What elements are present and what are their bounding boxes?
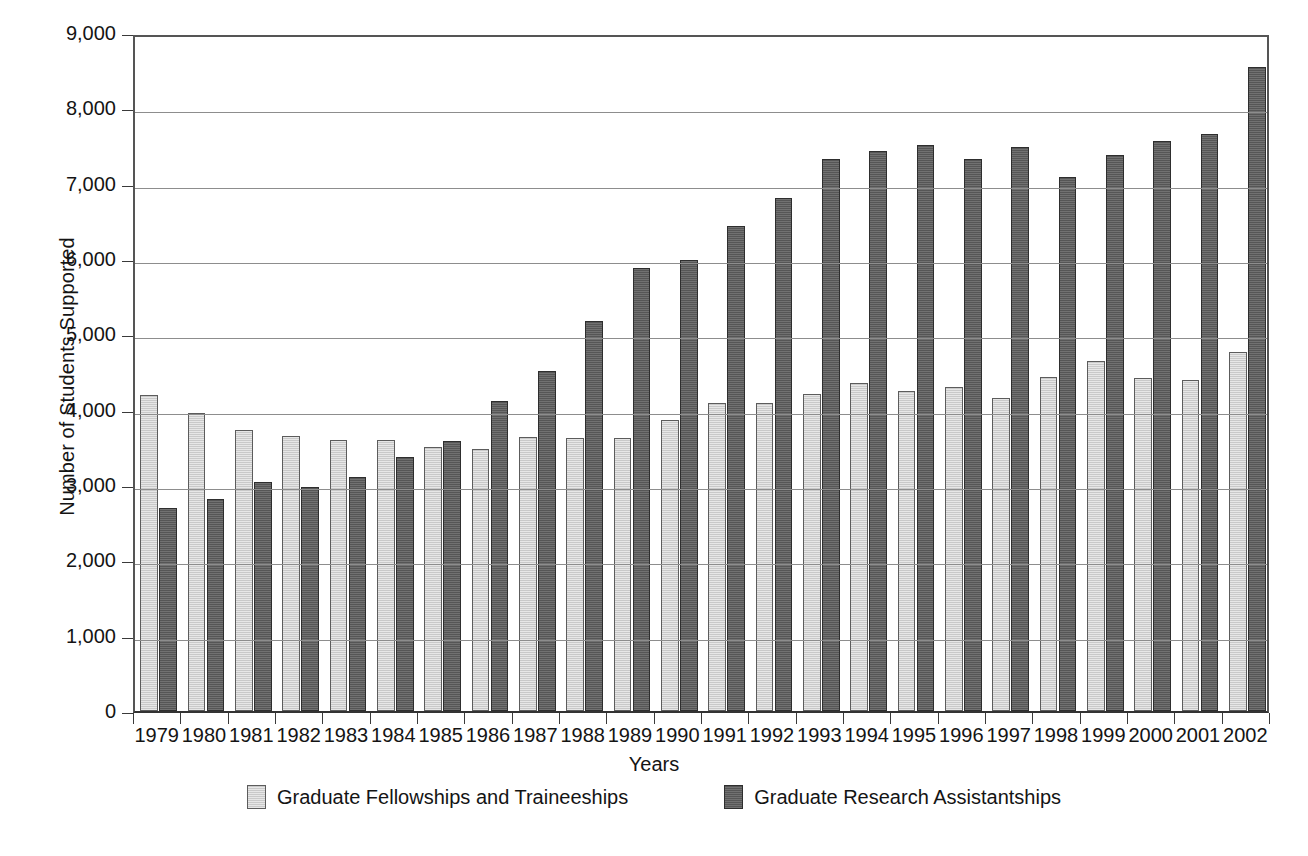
bar-graduate-research-assistantships-1991 bbox=[727, 226, 745, 711]
x-axis-tick-label-1984: 1984 bbox=[371, 724, 416, 747]
gridline bbox=[135, 188, 1267, 189]
x-axis-tick bbox=[559, 713, 560, 724]
x-axis-tick-label-1986: 1986 bbox=[466, 724, 511, 747]
bar-graduate-research-assistantships-1986 bbox=[491, 401, 509, 711]
bars-layer bbox=[135, 37, 1267, 711]
bar-graduate-fellowships-and-traineeships-1996 bbox=[945, 387, 963, 711]
bar-graduate-fellowships-and-traineeships-1994 bbox=[850, 383, 868, 711]
x-axis-tick-label-1987: 1987 bbox=[513, 724, 558, 747]
bar-graduate-research-assistantships-1980 bbox=[207, 499, 225, 711]
x-axis-tick-label-1996: 1996 bbox=[939, 724, 984, 747]
y-axis-tick bbox=[122, 35, 133, 36]
x-axis-tick bbox=[275, 713, 276, 724]
bar-graduate-research-assistantships-2001 bbox=[1201, 134, 1219, 711]
y-axis-title: Number of Students Supported bbox=[56, 57, 79, 697]
bar-graduate-research-assistantships-1999 bbox=[1106, 155, 1124, 711]
x-axis-tick bbox=[322, 713, 323, 724]
x-axis-tick-label-1979: 1979 bbox=[134, 724, 179, 747]
bar-graduate-fellowships-and-traineeships-1984 bbox=[377, 440, 395, 711]
x-axis-tick bbox=[1127, 713, 1128, 724]
bar-graduate-research-assistantships-1979 bbox=[159, 508, 177, 711]
bar-graduate-research-assistantships-1985 bbox=[443, 441, 461, 711]
bar-graduate-research-assistantships-1997 bbox=[1011, 147, 1029, 711]
x-axis-tick-label-1980: 1980 bbox=[182, 724, 227, 747]
x-axis-tick-label-1982: 1982 bbox=[276, 724, 321, 747]
gridline bbox=[135, 489, 1267, 490]
bar-graduate-fellowships-and-traineeships-1997 bbox=[992, 398, 1010, 711]
x-axis-tick-label-1985: 1985 bbox=[418, 724, 463, 747]
bar-graduate-fellowships-and-traineeships-2001 bbox=[1182, 380, 1200, 711]
y-axis-tick-label: 7,000 bbox=[30, 173, 116, 196]
x-axis-tick-label-2002: 2002 bbox=[1223, 724, 1268, 747]
x-axis-tick bbox=[748, 713, 749, 724]
y-axis-tick bbox=[122, 110, 133, 111]
y-axis-tick bbox=[122, 487, 133, 488]
y-axis-tick-label: 9,000 bbox=[30, 22, 116, 45]
x-axis-tick bbox=[180, 713, 181, 724]
gridline bbox=[135, 564, 1267, 565]
bar-graduate-fellowships-and-traineeships-1991 bbox=[708, 403, 726, 711]
bar-graduate-research-assistantships-1994 bbox=[869, 151, 887, 711]
bar-graduate-fellowships-and-traineeships-1979 bbox=[140, 395, 158, 711]
bar-graduate-fellowships-and-traineeships-1995 bbox=[898, 391, 916, 711]
x-axis-tick-label-1999: 1999 bbox=[1081, 724, 1126, 747]
gridline bbox=[135, 338, 1267, 339]
legend-label: Graduate Research Assistantships bbox=[754, 786, 1061, 809]
x-axis-tick bbox=[228, 713, 229, 724]
x-axis-tick bbox=[1222, 713, 1223, 724]
y-axis-tick-label: 5,000 bbox=[30, 323, 116, 346]
x-axis-tick-label-1990: 1990 bbox=[655, 724, 700, 747]
x-axis-tick bbox=[1269, 713, 1270, 724]
x-axis-tick bbox=[1032, 713, 1033, 724]
x-axis-tick bbox=[606, 713, 607, 724]
y-axis-tick-label: 0 bbox=[30, 700, 116, 723]
gridline bbox=[135, 640, 1267, 641]
bar-graduate-fellowships-and-traineeships-1982 bbox=[282, 436, 300, 711]
bar-graduate-research-assistantships-2000 bbox=[1153, 141, 1171, 711]
x-axis-tick bbox=[1174, 713, 1175, 724]
legend-item-assistantships: Graduate Research Assistantships bbox=[724, 785, 1061, 809]
bar-graduate-fellowships-and-traineeships-1990 bbox=[661, 420, 679, 711]
bar-graduate-fellowships-and-traineeships-1983 bbox=[330, 440, 348, 711]
bar-graduate-research-assistantships-2002 bbox=[1248, 67, 1266, 711]
x-axis-tick bbox=[654, 713, 655, 724]
bar-graduate-research-assistantships-1987 bbox=[538, 371, 556, 712]
bar-graduate-research-assistantships-1988 bbox=[585, 321, 603, 711]
bar-graduate-research-assistantships-1981 bbox=[254, 482, 272, 711]
x-axis-tick-label-1989: 1989 bbox=[608, 724, 653, 747]
y-axis-tick bbox=[122, 562, 133, 563]
bar-graduate-fellowships-and-traineeships-1988 bbox=[566, 438, 584, 711]
x-axis-tick bbox=[370, 713, 371, 724]
x-axis-tick-label-1991: 1991 bbox=[702, 724, 747, 747]
gridline bbox=[135, 112, 1267, 113]
y-axis-tick bbox=[122, 261, 133, 262]
bar-graduate-research-assistantships-1983 bbox=[349, 477, 367, 711]
x-axis-tick bbox=[890, 713, 891, 724]
bar-graduate-fellowships-and-traineeships-1993 bbox=[803, 394, 821, 711]
y-axis-tick-label: 3,000 bbox=[30, 474, 116, 497]
y-axis-tick bbox=[122, 186, 133, 187]
x-axis-tick-label-1988: 1988 bbox=[560, 724, 605, 747]
y-axis-tick-label: 1,000 bbox=[30, 625, 116, 648]
bar-graduate-research-assistantships-1996 bbox=[964, 159, 982, 711]
legend-label: Graduate Fellowships and Traineeships bbox=[277, 786, 628, 809]
bar-chart: Number of Students Supported 9,0008,0007… bbox=[0, 0, 1308, 856]
bar-graduate-fellowships-and-traineeships-1980 bbox=[188, 413, 206, 711]
legend-item-fellowships: Graduate Fellowships and Traineeships bbox=[247, 785, 628, 809]
x-axis-tick-label-1983: 1983 bbox=[324, 724, 369, 747]
x-axis-tick bbox=[464, 713, 465, 724]
x-axis-tick-label-1981: 1981 bbox=[229, 724, 274, 747]
bar-graduate-research-assistantships-1992 bbox=[775, 198, 793, 711]
x-axis-tick bbox=[938, 713, 939, 724]
bar-graduate-research-assistantships-1990 bbox=[680, 260, 698, 711]
y-axis-tick bbox=[122, 713, 133, 714]
y-axis-tick-label: 2,000 bbox=[30, 549, 116, 572]
bar-graduate-research-assistantships-1995 bbox=[917, 145, 935, 711]
bar-graduate-research-assistantships-1984 bbox=[396, 457, 414, 711]
x-axis-tick-label-1998: 1998 bbox=[1034, 724, 1079, 747]
bar-graduate-research-assistantships-1982 bbox=[301, 487, 319, 711]
gridline bbox=[135, 263, 1267, 264]
bar-graduate-fellowships-and-traineeships-2000 bbox=[1134, 378, 1152, 711]
x-axis-tick bbox=[512, 713, 513, 724]
x-axis-tick-label-1994: 1994 bbox=[844, 724, 889, 747]
